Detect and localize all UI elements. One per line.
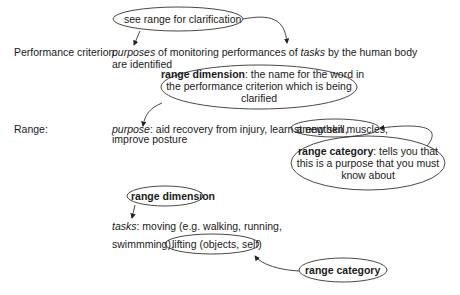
callout-range-dimension-big: range dimension: the name for the word i… <box>161 68 357 104</box>
range-tasks-text: tasks: moving (e.g. walking, running, <box>112 220 282 232</box>
performance-criterion-text: purposes of monitoring performances of t… <box>112 46 417 58</box>
range-label: Range: <box>14 123 48 135</box>
callout-range-dimension-small: range dimension <box>131 190 215 202</box>
performance-criterion-label: Performance criterion: <box>14 46 117 58</box>
callout-range-category-small: range category <box>305 264 380 276</box>
range-tasks-circled: lifting (objects, self) <box>172 238 262 250</box>
callout-see-range: see range for clarification <box>124 13 241 25</box>
callout-range-category-big: range category: tells you that this is a… <box>291 145 445 181</box>
range-purpose-circled: strengthen muscles, <box>294 123 388 135</box>
range-purpose-line2: improve posture <box>112 133 187 145</box>
range-tasks-line2: swimmming), <box>112 238 174 250</box>
